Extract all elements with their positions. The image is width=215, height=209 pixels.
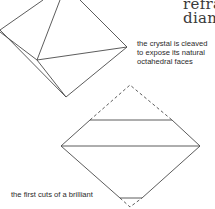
octahedron-diagram [0,0,215,209]
title-line-2: diam [183,11,215,25]
caption-line: the crystal is cleaved [137,39,207,48]
caption-line: octahedral faces [137,57,207,66]
brilliant-outline [61,120,200,198]
caption-first-cuts: the first cuts of a brilliant [11,190,93,199]
cleaved-octahedron [0,0,127,97]
section-title: refra diam [183,0,215,25]
caption-cleaved: the crystal is cleaved to expose its nat… [137,39,207,66]
caption-line: to expose its natural [137,48,207,57]
